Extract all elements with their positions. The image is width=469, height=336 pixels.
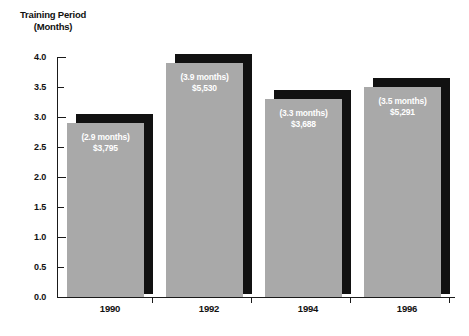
y-tick-1-5 bbox=[57, 207, 64, 208]
x-axis-label-1994: 1994 bbox=[265, 303, 351, 314]
bar-1996: (3.5 months) $5,291 bbox=[364, 87, 441, 297]
chart-title: Training Period (Months) bbox=[20, 9, 86, 33]
bar-cost-label-1996: $5,291 bbox=[364, 107, 441, 118]
y-tick-label-1-5: 1.5 bbox=[8, 202, 46, 212]
chart-title-line-2: (Months) bbox=[20, 21, 86, 33]
bar-months-label-1990: (2.9 months) bbox=[67, 132, 144, 143]
bar-cost-label-1990: $3,795 bbox=[67, 143, 144, 154]
y-tick-1-0 bbox=[57, 237, 66, 238]
y-tick-4-0 bbox=[57, 57, 66, 58]
bar-1994: (3.3 months) $3,688 bbox=[265, 99, 342, 297]
y-tick-label-4-0: 4.0 bbox=[8, 52, 46, 62]
x-axis-label-1996: 1996 bbox=[364, 303, 450, 314]
bar-1990: (2.9 months) $3,795 bbox=[67, 123, 144, 297]
bar-months-label-1996: (3.5 months) bbox=[364, 96, 441, 107]
bar-cost-label-1994: $3,688 bbox=[265, 119, 342, 130]
y-tick-3-5 bbox=[57, 87, 64, 88]
y-tick-label-3-0: 3.0 bbox=[8, 112, 46, 122]
y-tick-label-1-0: 1.0 bbox=[8, 232, 46, 242]
y-tick-label-2-5: 2.5 bbox=[8, 142, 46, 152]
bar-chart: Training Period (Months) 4.0 3.5 3.0 2.5… bbox=[0, 0, 469, 336]
y-tick-2-0 bbox=[57, 177, 66, 178]
bar-cost-label-1992: $5,530 bbox=[166, 83, 243, 94]
y-tick-label-0-0: 0.0 bbox=[8, 292, 46, 302]
bar-value-labels-1990: (2.9 months) $3,795 bbox=[67, 132, 144, 154]
bar-1992: (3.9 months) $5,530 bbox=[166, 63, 243, 297]
bar-months-label-1992: (3.9 months) bbox=[166, 72, 243, 83]
y-tick-label-2-0: 2.0 bbox=[8, 172, 46, 182]
y-tick-label-0-5: 0.5 bbox=[8, 262, 46, 272]
y-tick-0-5 bbox=[57, 267, 64, 268]
x-axis-label-1990: 1990 bbox=[67, 303, 153, 314]
bar-value-labels-1996: (3.5 months) $5,291 bbox=[364, 96, 441, 118]
y-tick-label-3-5: 3.5 bbox=[8, 82, 46, 92]
x-axis-line bbox=[57, 297, 455, 298]
bar-months-label-1994: (3.3 months) bbox=[265, 108, 342, 119]
bar-value-labels-1992: (3.9 months) $5,530 bbox=[166, 72, 243, 94]
chart-title-line-1: Training Period bbox=[20, 9, 86, 21]
x-axis-label-1992: 1992 bbox=[166, 303, 252, 314]
y-tick-3-0 bbox=[57, 117, 66, 118]
bar-value-labels-1994: (3.3 months) $3,688 bbox=[265, 108, 342, 130]
y-tick-2-5 bbox=[57, 147, 64, 148]
